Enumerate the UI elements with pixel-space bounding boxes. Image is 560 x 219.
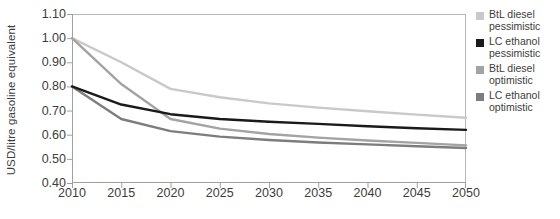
legend-item[interactable]: LC ethanol pessimistic xyxy=(476,36,560,59)
legend-item-label: BtL diesel pessimistic xyxy=(489,9,540,32)
series-line xyxy=(72,86,466,148)
y-tick-label: 0.90 xyxy=(24,56,66,69)
legend-item[interactable]: LC ethanol optimistic xyxy=(476,90,560,113)
legend-item[interactable]: BtL diesel optimistic xyxy=(476,63,560,86)
y-tick-label: 0.50 xyxy=(24,153,66,166)
y-axis-ticks xyxy=(67,15,72,184)
chart-legend: BtL diesel pessimisticLC ethanol pessimi… xyxy=(476,9,560,117)
series-line xyxy=(72,86,466,129)
legend-swatch-icon xyxy=(476,12,484,20)
legend-swatch-icon xyxy=(476,39,484,47)
plot-area xyxy=(72,14,466,183)
legend-swatch-icon xyxy=(476,66,484,74)
y-axis-title-text: USD/litre gasoline equivalent xyxy=(5,25,17,176)
series-line xyxy=(72,38,466,145)
y-tick-label: 1.00 xyxy=(24,32,66,45)
data-series-group xyxy=(72,38,466,148)
legend-item-label: LC ethanol optimistic xyxy=(489,90,540,113)
y-tick-label: 1.10 xyxy=(24,8,66,21)
y-tick-label: 0.60 xyxy=(24,129,66,142)
plot-svg xyxy=(72,14,466,183)
legend-item-label: BtL diesel optimistic xyxy=(489,63,535,86)
y-tick-label: 0.80 xyxy=(24,80,66,93)
legend-item-label: LC ethanol pessimistic xyxy=(489,36,540,59)
y-axis-title: USD/litre gasoline equivalent xyxy=(0,0,22,200)
y-tick-label: 0.70 xyxy=(24,105,66,118)
axis-frame xyxy=(72,14,466,183)
legend-swatch-icon xyxy=(476,93,484,101)
x-axis-tick-labels: 201020152020202520302035204020452050 xyxy=(72,187,466,207)
line-chart-figure: USD/litre gasoline equivalent 1.101.000.… xyxy=(0,0,560,219)
legend-item[interactable]: BtL diesel pessimistic xyxy=(476,9,560,32)
x-tick-label: 2050 xyxy=(436,187,496,200)
